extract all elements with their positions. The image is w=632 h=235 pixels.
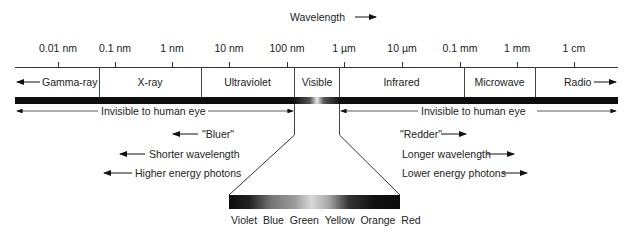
tick-label: 0.1 mm — [442, 42, 477, 54]
tick-label: 10 nm — [214, 42, 243, 54]
tick-label: 0.01 nm — [39, 42, 77, 54]
visible-gradient-bar — [229, 195, 400, 209]
band-ultraviolet: Ultraviolet — [201, 76, 294, 88]
funnel-right — [340, 135, 401, 195]
note-lower-energy: Lower energy photons — [402, 167, 506, 179]
funnel-left — [229, 135, 295, 195]
color-yellow: Yellow — [325, 214, 355, 226]
spectrum-bar-left — [15, 97, 295, 104]
tick-label: 0.1 nm — [99, 42, 131, 54]
tick-label: 1 nm — [160, 42, 183, 54]
band-gamma-ray: Gamma-ray — [42, 76, 97, 88]
tick-label: 1 cm — [563, 42, 586, 54]
band-microwave: Microwave — [464, 76, 535, 88]
visible-color-labels: Violet Blue Green Yellow Orange Red — [231, 214, 421, 226]
band-x-ray: X-ray — [99, 76, 201, 88]
tick-label: 100 nm — [269, 42, 304, 54]
band-visible: Visible — [294, 76, 340, 88]
color-green: Green — [290, 214, 319, 226]
spectrum-graphic — [0, 0, 632, 235]
note-redder: "Redder" — [400, 128, 442, 140]
note-shorter: Shorter wavelength — [149, 148, 239, 160]
tick-label: 10 µm — [387, 42, 416, 54]
band-radio: Radio — [564, 76, 591, 88]
tick-marks — [59, 62, 575, 67]
spectrum-bar-visible — [294, 97, 340, 104]
color-blue: Blue — [263, 214, 284, 226]
tick-label: 1 mm — [504, 42, 530, 54]
color-violet: Violet — [231, 214, 257, 226]
invisible-right-label: Invisible to human eye — [421, 105, 525, 117]
note-longer: Longer wavelength — [402, 148, 491, 160]
color-red: Red — [401, 214, 420, 226]
color-orange: Orange — [360, 214, 395, 226]
spectrum-bar-right — [339, 97, 618, 104]
band-infrared: Infrared — [339, 76, 464, 88]
axis-title: Wavelength — [290, 11, 345, 23]
invisible-left-label: Invisible to human eye — [101, 105, 205, 117]
note-bluer: "Bluer" — [202, 128, 234, 140]
tick-label: 1 µm — [332, 42, 356, 54]
note-higher-energy: Higher energy photons — [135, 167, 241, 179]
